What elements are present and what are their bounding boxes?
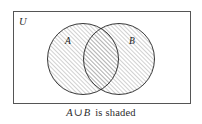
caption-shaded-text: is shaded: [95, 107, 136, 118]
figure-caption: A∪B is shaded: [0, 106, 202, 118]
venn-diagram-figure: U A B A∪B is shaded: [0, 0, 202, 124]
set-b-label: B: [129, 36, 135, 46]
caption-set-a: A: [66, 107, 73, 118]
set-a-label: A: [64, 36, 71, 46]
caption-union-operator: ∪: [73, 107, 84, 118]
